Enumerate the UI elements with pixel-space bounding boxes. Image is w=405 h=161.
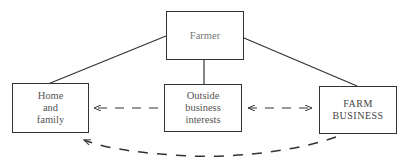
edge-farmer-home	[48, 36, 166, 84]
node-home-label-line3: family	[37, 114, 64, 126]
node-outside-label-line1: Outside	[187, 90, 220, 102]
node-farm-business: FARM BUSINESS	[319, 86, 397, 134]
node-outside-label-line2: business	[185, 102, 221, 114]
node-farmer: Farmer	[166, 11, 244, 60]
node-home-and-family: Home and family	[12, 83, 89, 133]
node-home-label-line2: and	[43, 102, 58, 114]
node-farm-label-line2: BUSINESS	[332, 110, 383, 122]
node-outside-label-line3: interests	[186, 114, 221, 126]
edge-farm-home-curved	[84, 137, 336, 156]
node-outside-business-interests: Outside business interests	[164, 84, 242, 132]
node-farmer-label: Farmer	[190, 30, 220, 42]
node-home-label-line1: Home	[38, 90, 64, 102]
node-farm-label-line1: FARM	[343, 98, 373, 110]
edge-farmer-farm	[244, 38, 357, 86]
